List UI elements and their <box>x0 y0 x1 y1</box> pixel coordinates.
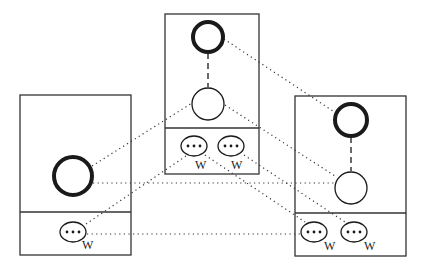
ellipsis-dot <box>199 145 202 148</box>
w-label: W <box>364 239 376 253</box>
box-frame <box>295 96 406 256</box>
w-label: W <box>324 239 336 253</box>
dotted-link <box>224 39 336 113</box>
thin-circle-node <box>192 88 224 120</box>
dotted-link <box>92 103 192 166</box>
box-frame <box>20 95 131 255</box>
dotted-link <box>86 156 186 224</box>
box-left: W <box>20 95 131 255</box>
ellipsis-dot <box>313 231 316 234</box>
ellipsis-dot <box>347 231 350 234</box>
ellipsis-dot <box>72 231 75 234</box>
thick-circle-node <box>193 22 223 52</box>
thick-circle-node <box>335 104 367 136</box>
boxes: WWWWW <box>20 14 406 256</box>
ellipsis-dot <box>78 231 81 234</box>
ellipse-node: W <box>301 222 336 253</box>
ellipsis-dot <box>353 231 356 234</box>
box-frame <box>165 14 259 174</box>
ellipse-node: W <box>218 136 244 172</box>
w-label: W <box>231 158 243 172</box>
ellipse-node: W <box>341 222 376 253</box>
ellipsis-dot <box>66 231 69 234</box>
ellipsis-dot <box>307 231 310 234</box>
w-label: W <box>82 238 94 252</box>
w-label: W <box>195 158 207 172</box>
ellipse-node: W <box>60 222 94 252</box>
ellipsis-dot <box>224 145 227 148</box>
box-middle: WW <box>165 14 259 174</box>
dotted-links <box>86 39 345 234</box>
ellipsis-dot <box>319 231 322 234</box>
ellipsis-dot <box>359 231 362 234</box>
ellipsis-dot <box>236 145 239 148</box>
dotted-link <box>205 155 305 222</box>
thin-circle-node <box>335 172 367 204</box>
ellipse-node: W <box>181 136 207 172</box>
box-right: WW <box>295 96 406 256</box>
thick-circle-node <box>54 157 92 195</box>
ellipsis-dot <box>187 145 190 148</box>
diagram-canvas: WWWWW <box>0 0 425 272</box>
ellipsis-dot <box>193 145 196 148</box>
ellipsis-dot <box>230 145 233 148</box>
